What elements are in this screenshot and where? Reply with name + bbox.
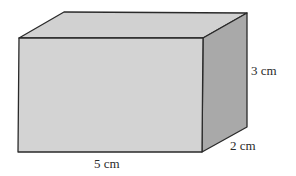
prism-front-face [18,38,203,152]
height-label: 3 cm [251,63,277,78]
length-label: 5 cm [94,156,120,171]
depth-label: 2 cm [230,138,256,153]
rectangular-prism-diagram: 3 cm 2 cm 5 cm [0,0,296,176]
